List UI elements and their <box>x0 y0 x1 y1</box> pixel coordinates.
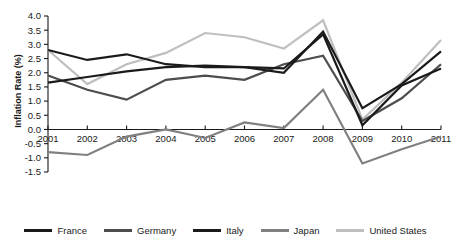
legend-item-japan[interactable]: Japan <box>261 226 320 236</box>
legend-item-united-states[interactable]: United States <box>336 226 426 236</box>
series-line-germany <box>48 56 441 121</box>
chart-legend: FranceGermanyItalyJapanUnited States <box>0 226 451 236</box>
legend-swatch <box>24 229 52 232</box>
y-tick-label: 2.5 <box>28 53 41 64</box>
x-tick-label: 2007 <box>273 133 294 144</box>
y-tick-label: 0.5 <box>28 110 41 121</box>
inflation-rate-line-chart: Inflation Rate (%) -1.5-1.0-0.50.00.51.0… <box>0 0 451 248</box>
y-tick-label: 4.0 <box>28 10 41 21</box>
legend-item-france[interactable]: France <box>24 226 87 236</box>
y-tick-label: -1.0 <box>25 152 41 163</box>
legend-item-italy[interactable]: Italy <box>193 226 243 236</box>
series-line-italy <box>48 32 441 109</box>
legend-label: Italy <box>226 226 243 236</box>
y-tick-label: 1.0 <box>28 95 41 106</box>
y-tick-label: 3.5 <box>28 25 41 36</box>
legend-swatch <box>104 229 132 232</box>
x-tick-label: 2008 <box>313 133 334 144</box>
y-tick-label: 1.5 <box>28 81 41 92</box>
y-tick-label: 3.0 <box>28 39 41 50</box>
legend-swatch <box>261 229 289 232</box>
legend-label: Germany <box>137 226 176 236</box>
x-tick-label: 2006 <box>234 133 255 144</box>
y-tick-label: -1.5 <box>25 166 41 177</box>
legend-item-germany[interactable]: Germany <box>104 226 176 236</box>
y-tick-label: 2.0 <box>28 67 41 78</box>
x-tick-label: 2001 <box>37 133 58 144</box>
legend-swatch <box>336 229 364 232</box>
plot-area: -1.5-1.0-0.50.00.51.01.52.02.53.03.54.0 … <box>0 0 451 248</box>
legend-label: United States <box>369 226 426 236</box>
x-tick-label: 2002 <box>77 133 98 144</box>
legend-label: France <box>57 226 87 236</box>
x-tick-label: 2009 <box>352 133 373 144</box>
x-tick-label: 2010 <box>391 133 412 144</box>
legend-label: Japan <box>294 226 320 236</box>
legend-swatch <box>193 229 221 232</box>
x-axis: 2001200220032004200520062007200820092010… <box>37 125 451 144</box>
x-tick-label: 2004 <box>155 133 176 144</box>
y-axis: -1.5-1.0-0.50.00.51.01.52.02.53.03.54.0 <box>25 10 48 177</box>
